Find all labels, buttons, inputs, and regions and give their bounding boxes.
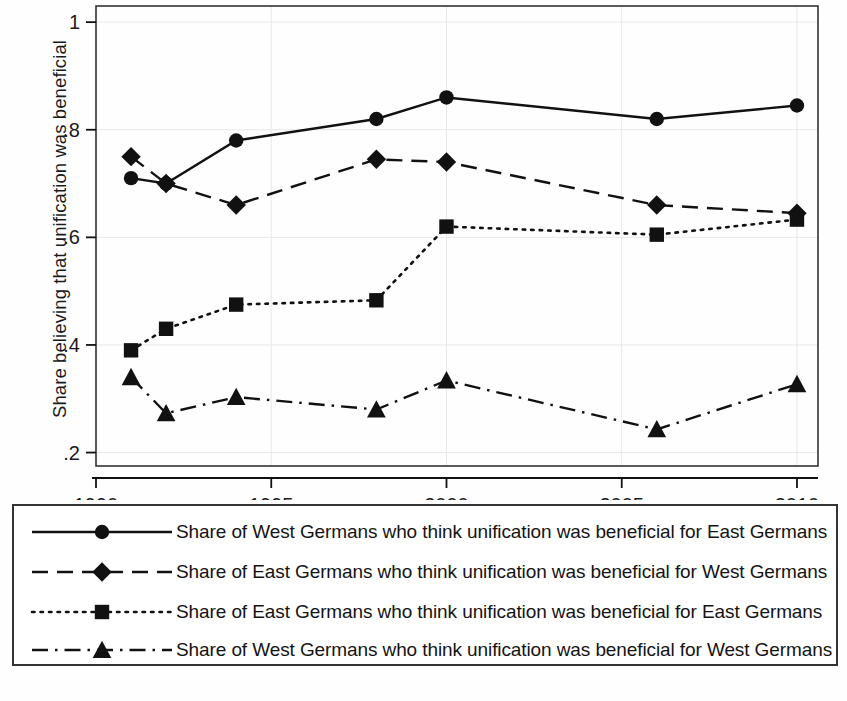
data-point-triangle: [227, 388, 246, 405]
data-point-square: [439, 219, 453, 233]
legend-item: Share of West Germans who think unificat…: [14, 630, 836, 670]
plot-frame: [96, 6, 818, 466]
x-axis-tick-label: 2000: [424, 494, 469, 500]
data-point-square: [650, 227, 664, 241]
legend-item-label: Share of West Germans who think unificat…: [176, 639, 832, 661]
data-point-square: [95, 605, 109, 619]
x-axis-tick-label: 2010: [775, 494, 820, 500]
legend-item: Share of East Germans who think unificat…: [14, 552, 836, 592]
data-point-circle: [650, 112, 664, 126]
series-line: [131, 220, 797, 351]
data-point-triangle: [647, 420, 666, 437]
chart-legend: Share of West Germans who think unificat…: [12, 504, 838, 666]
chart-series: [124, 90, 804, 190]
data-point-diamond: [647, 195, 666, 214]
chart-series: [122, 368, 807, 438]
y-axis-tick-label: .6: [63, 226, 80, 248]
data-point-square: [369, 293, 383, 307]
data-point-square: [124, 343, 138, 357]
data-point-triangle: [122, 368, 141, 385]
x-axis-tick-label: 1995: [249, 494, 294, 500]
x-axis-tick-label: 1990: [74, 494, 119, 500]
data-point-diamond: [92, 562, 111, 581]
data-point-square: [229, 297, 243, 311]
legend-key-diamond-icon: [28, 557, 176, 587]
legend-key-square-icon: [28, 597, 176, 627]
x-axis-tick-label: 2005: [599, 494, 644, 500]
chart-series: [121, 147, 806, 223]
legend-item-label: Share of East Germans who think unificat…: [176, 561, 827, 583]
data-point-circle: [95, 525, 109, 539]
chart-canvas: .2.4.6.8119901995200020052010: [0, 0, 847, 500]
data-point-triangle: [788, 375, 807, 392]
legend-key-triangle-icon: [28, 635, 176, 665]
data-point-circle: [124, 171, 138, 185]
data-point-circle: [790, 98, 804, 112]
legend-key-circle-icon: [28, 517, 176, 547]
data-point-square: [159, 322, 173, 336]
y-axis-tick-label: .4: [63, 334, 80, 356]
data-point-circle: [369, 112, 383, 126]
data-point-diamond: [367, 150, 386, 169]
data-point-triangle: [437, 371, 456, 388]
y-axis-tick-label: .2: [63, 442, 80, 464]
data-point-circle: [439, 90, 453, 104]
data-point-circle: [229, 133, 243, 147]
y-axis-tick-label: .8: [63, 119, 80, 141]
data-point-triangle: [367, 400, 386, 417]
legend-item-label: Share of East Germans who think unificat…: [176, 601, 822, 623]
legend-item: Share of West Germans who think unificat…: [14, 512, 836, 552]
data-point-diamond: [156, 174, 175, 193]
data-point-diamond: [437, 152, 456, 171]
chart-page: Share believing that unification was ben…: [0, 0, 847, 701]
chart-plot-area: Share believing that unification was ben…: [0, 0, 847, 500]
data-point-square: [790, 212, 804, 226]
legend-item-label: Share of West Germans who think unificat…: [176, 521, 827, 543]
legend-item: Share of East Germans who think unificat…: [14, 592, 836, 632]
y-axis-tick-label: 1: [69, 11, 80, 33]
data-point-diamond: [121, 147, 140, 166]
chart-series: [124, 212, 804, 357]
data-point-diamond: [226, 195, 245, 214]
